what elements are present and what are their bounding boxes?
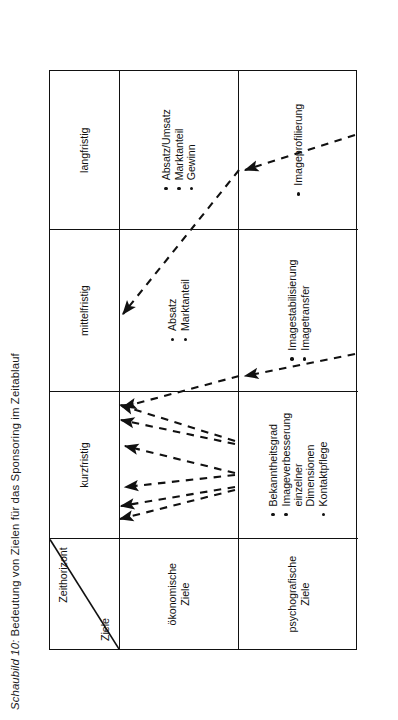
- cell-psychografisch-mittelfristig: ImagestabilisierungImagetransfer: [239, 230, 358, 391]
- bullet-item: Imagetransfer: [299, 260, 311, 362]
- bullet-item: Imagestabilisierung: [286, 260, 298, 362]
- bullet-list: AbsatzMarktanteil: [166, 279, 192, 342]
- bullet-item: Imageprofilierung: [292, 104, 304, 197]
- bullet-item: Kontaktpflege: [317, 413, 329, 518]
- column-header-label: kurzfristig: [78, 442, 91, 487]
- corner-label-time-horizon: Zeithorizont: [57, 547, 70, 602]
- caption-number: Schaubild 10:: [9, 640, 21, 710]
- cell-psychografisch-langfristig: Imageprofilierung: [239, 71, 358, 230]
- goals-time-matrix: Zeithorizont Ziele kurzfristig mittelfri…: [49, 70, 357, 650]
- bullet-list: Imageprofilierung: [292, 104, 305, 197]
- bullet-list: Absatz/UmsatzMarktanteilGewinn: [160, 109, 199, 191]
- bullet-list: BekanntheitsgradImageverbesserung einzel…: [267, 413, 331, 518]
- matrix-header-row: Zeithorizont Ziele kurzfristig mittelfri…: [50, 71, 119, 649]
- column-header-kurzfristig: kurzfristig: [50, 392, 119, 539]
- matrix-corner-cell: Zeithorizont Ziele: [50, 539, 119, 649]
- caption-text: Bedeutung von Zielen für das Sponsoring …: [9, 353, 21, 640]
- row-label-text: ökonomische Ziele: [166, 563, 192, 625]
- bullet-item: Marktanteil: [179, 279, 191, 342]
- row-label-psychografische-ziele: psychografische Ziele: [239, 539, 358, 649]
- column-header-label: mittelfristig: [78, 285, 91, 336]
- bullet-item: Bekanntheitsgrad: [267, 413, 279, 518]
- figure-stage: Schaubild 10: Bedeutung von Zielen für d…: [0, 0, 398, 720]
- column-header-langfristig: langfristig: [50, 71, 119, 230]
- matrix-row-oekonomische-ziele: ökonomische Ziele AbsatzMarktanteil Absa…: [119, 71, 238, 649]
- bullet-item: Absatz: [166, 279, 178, 342]
- bullet-item: Absatz/Umsatz: [160, 109, 172, 191]
- bullet-list: ImagestabilisierungImagetransfer: [286, 260, 312, 362]
- matrix-row-psychografische-ziele: psychografische Ziele BekanntheitsgradIm…: [238, 71, 358, 649]
- cell-psychografisch-kurzfristig: BekanntheitsgradImageverbesserung einzel…: [239, 392, 358, 539]
- column-header-label: langfristig: [78, 128, 91, 173]
- column-header-mittelfristig: mittelfristig: [50, 230, 119, 391]
- figure-caption: Schaubild 10: Bedeutung von Zielen für d…: [8, 10, 22, 710]
- rotated-page-wrapper: Schaubild 10: Bedeutung von Zielen für d…: [0, 0, 398, 720]
- cell-oekonomisch-mittelfristig: AbsatzMarktanteil: [120, 230, 238, 391]
- bullet-item: Marktanteil: [173, 109, 185, 191]
- bullet-item: Imageverbesserung einzelner Dimensionen: [280, 413, 317, 518]
- corner-label-goals: Ziele: [99, 618, 112, 641]
- bullet-item: Gewinn: [185, 109, 197, 191]
- cell-oekonomisch-langfristig: Absatz/UmsatzMarktanteilGewinn: [120, 71, 238, 230]
- row-label-oekonomische-ziele: ökonomische Ziele: [120, 539, 238, 649]
- cell-oekonomisch-kurzfristig: [120, 392, 238, 539]
- row-label-text: psychografische Ziele: [286, 556, 312, 633]
